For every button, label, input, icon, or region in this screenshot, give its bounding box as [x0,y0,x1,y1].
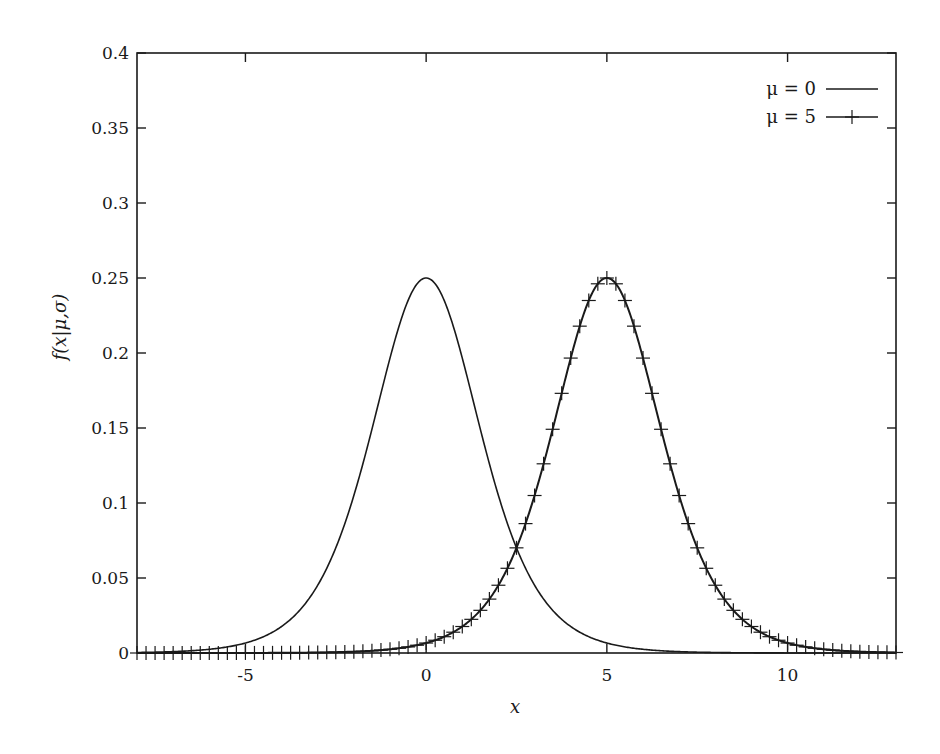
x-axis-ticks: -50510 [237,53,798,685]
x-tick-label: -5 [237,665,254,685]
y-tick-label: 0.05 [91,568,129,588]
x-tick-label: 5 [601,665,612,685]
y-tick-label: 0.15 [91,418,129,438]
markers-mu-5 [130,271,903,660]
legend-label: μ = 0 [766,78,816,99]
curve-mu-5 [137,278,896,653]
y-tick-label: 0.35 [91,118,129,138]
plot-border [137,53,896,653]
x-axis-label: x [510,696,520,717]
y-tick-label: 0.3 [102,193,129,213]
y-axis-label: f(x|μ,σ) [49,294,71,363]
y-axis-ticks: 00.050.10.150.20.250.30.350.4 [91,43,896,663]
legend: μ = 0μ = 5 [766,78,878,127]
y-tick-label: 0.25 [91,268,129,288]
x-tick-label: 10 [777,665,799,685]
legend-label: μ = 5 [766,106,816,127]
x-tick-label: 0 [421,665,432,685]
y-tick-label: 0.2 [102,343,129,363]
curves [130,271,903,660]
chart: 00.050.10.150.20.250.30.350.4 -50510 μ =… [0,0,940,754]
y-tick-label: 0 [118,643,129,663]
y-tick-label: 0.1 [102,493,129,513]
plot-frame [137,53,896,653]
y-tick-label: 0.4 [102,43,129,63]
curve-mu-0 [137,278,896,653]
